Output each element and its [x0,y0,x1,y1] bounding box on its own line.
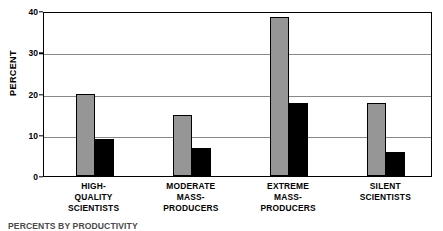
category-label-line: SILENT [325,181,443,192]
bar-gray-series-2 [270,17,289,176]
gridline [44,96,431,97]
y-axis-tick-label: 30 [14,49,38,58]
figure-caption-clipped: PERCENTS BY PRODUCTIVITY [8,222,438,231]
bar-black-series-0 [95,139,114,176]
bar-black-series-3 [386,152,405,176]
bar-gray-series-3 [367,103,386,176]
y-axis-tick-label: 0 [14,173,38,182]
gridline [44,54,431,55]
bar-chart: PERCENT 010203040 HIGH-QUALITYSCIENTISTS… [0,0,443,231]
y-axis-tick-label: 40 [14,8,38,17]
bar-black-series-2 [289,103,308,176]
bar-black-series-1 [192,148,211,176]
bar-gray-series-0 [76,94,95,177]
category-label-line: SCIENTISTS [325,192,443,203]
figure-caption-text: PERCENTS BY PRODUCTIVITY [8,222,138,231]
category-label-line: PRODUCERS [228,203,348,214]
y-axis-tick-label: 20 [14,90,38,99]
plot-area [43,12,432,177]
y-axis-tick-label: 10 [14,132,38,141]
bar-gray-series-1 [173,115,192,176]
category-label-3: SILENTSCIENTISTS [325,181,443,203]
